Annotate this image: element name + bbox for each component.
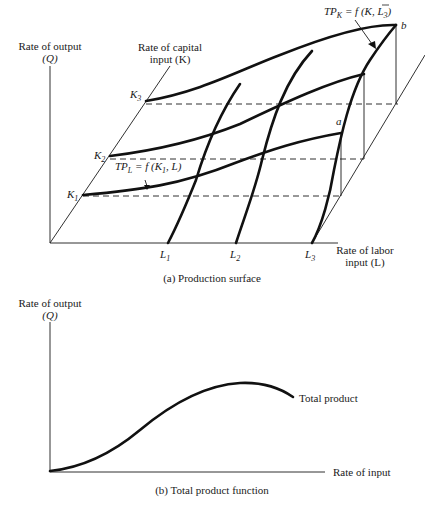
k1-label: K1 <box>66 188 78 203</box>
tpl-equation: TPL = f (K1, L) <box>115 160 182 175</box>
total-product-curve <box>50 383 293 471</box>
tpk-equation: TPK = f (K, L3) <box>324 5 392 20</box>
point-b-label: b <box>401 19 407 31</box>
output-axis-label: Rate of output <box>19 40 82 52</box>
figure-a-caption: (a) Production surface <box>163 272 261 285</box>
l1-label: L1 <box>159 248 170 263</box>
k2-label: K2 <box>93 149 105 164</box>
tp-curve-l3 <box>312 25 396 243</box>
k3-label: K3 <box>129 88 141 103</box>
tp-x-axis-label: Rate of input <box>333 466 390 478</box>
l3-label: L3 <box>304 248 315 263</box>
capital-axis-label: Rate of capital <box>138 41 202 53</box>
labor-axis-label: Rate of labor <box>336 244 394 256</box>
tpk-arrowhead-icon <box>368 41 376 49</box>
tpk-arrow <box>355 20 372 44</box>
tp-y-axis-label: Rate of output <box>19 297 82 309</box>
point-a-label: a <box>336 115 342 127</box>
tp-y-axis-symbol: (Q) <box>42 309 58 322</box>
output-axis-symbol: (Q) <box>42 52 58 65</box>
labor-axis-symbol: input (L) <box>345 256 385 269</box>
total-product-label: Total product <box>299 392 358 404</box>
tp-curve-l2 <box>236 51 312 243</box>
capital-axis <box>50 66 170 243</box>
capital-axis-symbol: input (K) <box>150 53 191 66</box>
figure-b-caption: (b) Total product function <box>155 484 269 497</box>
l2-label: L2 <box>229 248 240 263</box>
production-surface-diagram: Rate of output (Q) Rate of capital input… <box>0 0 425 505</box>
back-diagonal <box>312 55 425 243</box>
